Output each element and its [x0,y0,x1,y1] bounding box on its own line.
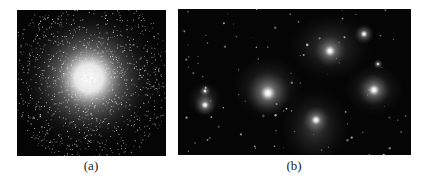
open-cluster-image [178,9,411,155]
panel-a-caption: (a) [71,158,111,174]
globular-cluster-image [17,10,166,156]
panel-b-caption: (b) [274,158,314,174]
globular-cluster-graphic [17,10,166,156]
open-cluster-graphic [178,9,411,155]
